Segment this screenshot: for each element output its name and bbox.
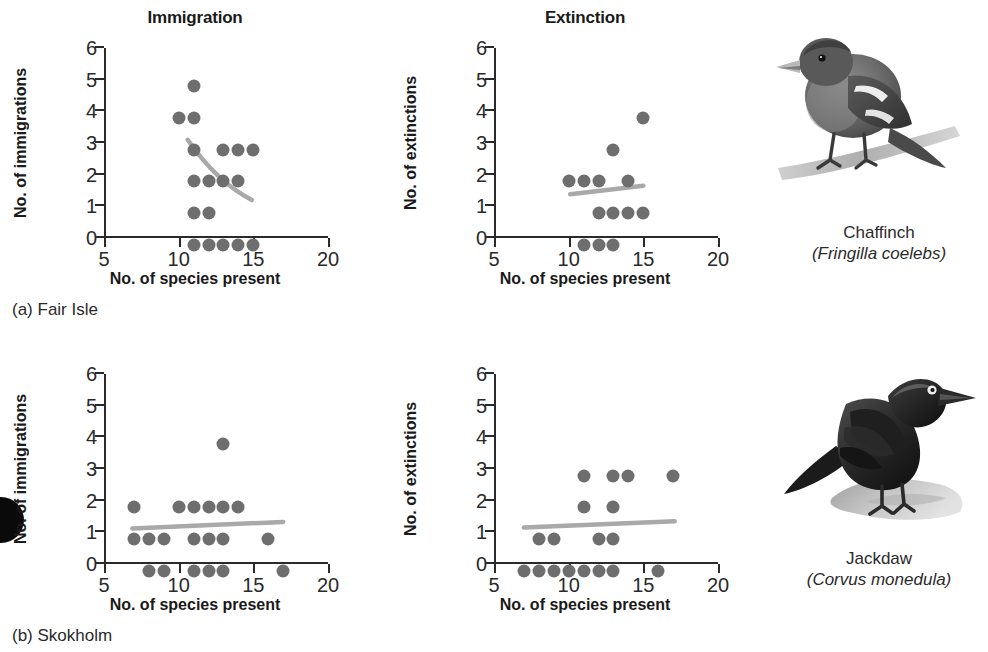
data-point (187, 564, 200, 577)
data-point (622, 175, 635, 188)
data-point (592, 238, 605, 251)
data-point (172, 111, 185, 124)
data-point (217, 143, 230, 156)
data-point (202, 501, 215, 514)
plot-fair-isle-immigration: Immigration No. of immigrations 01234565… (0, 0, 390, 300)
y-axis-tick-label: 0 (86, 554, 97, 574)
y-axis-tick-label: 4 (476, 101, 487, 121)
chaffinch-illustration (770, 10, 988, 222)
x-axis-tick (643, 564, 645, 573)
data-point (637, 111, 650, 124)
y-axis-tick-label: 0 (476, 228, 487, 248)
y-axis-tick-label: 2 (476, 491, 487, 511)
y-axis-tick-label: 0 (476, 554, 487, 574)
x-axis-tick-label: 10 (168, 575, 190, 595)
x-axis-line (104, 562, 328, 564)
y-axis-title-immigration-b: No. of immigrations (8, 374, 34, 564)
data-point (532, 532, 545, 545)
data-point (217, 501, 230, 514)
x-axis-tick-label: 20 (707, 249, 729, 269)
bird-scientific-name-chaffinch: (Fringilla coelebs) (770, 243, 988, 264)
panel-caption-a: (a) Fair Isle (12, 300, 98, 320)
y-axis-tick-label: 1 (86, 522, 97, 542)
x-axis-line (494, 562, 718, 564)
data-point (187, 532, 200, 545)
y-axis-tick-label: 3 (86, 133, 97, 153)
bird-common-name-jackdaw: Jackdaw (770, 548, 988, 569)
bird-scientific-name-jackdaw: (Corvus monedula) (770, 569, 988, 590)
data-point (592, 564, 605, 577)
x-axis-tick (643, 238, 645, 247)
data-point (547, 564, 560, 577)
panel-fair-isle: Immigration No. of immigrations 01234565… (0, 0, 988, 326)
y-axis-title-immigration-a: No. of immigrations (8, 48, 34, 238)
data-point (187, 238, 200, 251)
x-axis-tick-label: 20 (707, 575, 729, 595)
x-axis-tick (494, 238, 496, 247)
data-point (277, 564, 290, 577)
data-point (187, 111, 200, 124)
data-point (232, 501, 245, 514)
x-axis-line (494, 236, 718, 238)
data-point (532, 564, 545, 577)
data-point (217, 437, 230, 450)
data-point (187, 175, 200, 188)
data-point (577, 238, 590, 251)
y-axis-tick-label: 3 (86, 459, 97, 479)
data-point (577, 501, 590, 514)
data-point (217, 532, 230, 545)
y-axis-tick-label: 2 (476, 165, 487, 185)
x-axis-tick-label: 15 (242, 249, 264, 269)
plot-skokholm-immigration: No. of immigrations 01234565101520 No. o… (0, 326, 390, 626)
y-axis-tick-label: 1 (86, 196, 97, 216)
data-point (592, 206, 605, 219)
axes-area-b-immigration: 01234565101520 (104, 374, 328, 564)
data-point (637, 206, 650, 219)
data-point (577, 564, 590, 577)
data-point (562, 564, 575, 577)
data-point (562, 175, 575, 188)
y-axis-tick-label: 3 (476, 459, 487, 479)
data-point (247, 143, 260, 156)
x-axis-tick (179, 238, 181, 247)
data-point (127, 501, 140, 514)
data-point (217, 238, 230, 251)
data-point (247, 238, 260, 251)
panel-skokholm: No. of immigrations 01234565101520 No. o… (0, 326, 988, 652)
data-point (202, 564, 215, 577)
x-axis-tick (104, 564, 106, 573)
x-axis-tick (328, 564, 330, 573)
data-point (577, 469, 590, 482)
y-axis-tick-label: 6 (476, 364, 487, 384)
data-point (172, 501, 185, 514)
y-axis-line (494, 48, 496, 238)
y-axis-title-extinction-a: No. of extinctions (398, 48, 424, 238)
x-axis-title-b-extinction: No. of species present (390, 596, 780, 614)
x-axis-tick-label: 5 (98, 249, 109, 269)
data-point (262, 532, 275, 545)
data-point (607, 532, 620, 545)
data-point (202, 206, 215, 219)
data-point (157, 564, 170, 577)
x-axis-tick-label: 15 (242, 575, 264, 595)
data-point (157, 532, 170, 545)
bird-block-chaffinch: Chaffinch (Fringilla coelebs) (770, 10, 988, 310)
data-point (607, 143, 620, 156)
y-axis-title-extinction-b: No. of extinctions (398, 374, 424, 564)
y-axis-tick-label: 5 (476, 396, 487, 416)
plot-fair-isle-extinction: Extinction No. of extinctions 0123456510… (390, 0, 780, 300)
x-axis-line (104, 236, 328, 238)
y-axis-tick-label: 1 (476, 522, 487, 542)
x-axis-title-b-immigration: No. of species present (0, 596, 390, 614)
y-axis-line (104, 374, 106, 564)
data-point (652, 564, 665, 577)
x-axis-tick (104, 238, 106, 247)
y-axis-tick-label: 1 (476, 196, 487, 216)
y-axis-tick-label: 6 (476, 38, 487, 58)
x-axis-tick (569, 238, 571, 247)
data-point (232, 143, 245, 156)
bird-common-name-chaffinch: Chaffinch (770, 222, 988, 243)
x-axis-tick (179, 564, 181, 573)
axes-area-a-immigration: 01234565101520 (104, 48, 328, 238)
y-axis-tick-label: 0 (86, 228, 97, 248)
